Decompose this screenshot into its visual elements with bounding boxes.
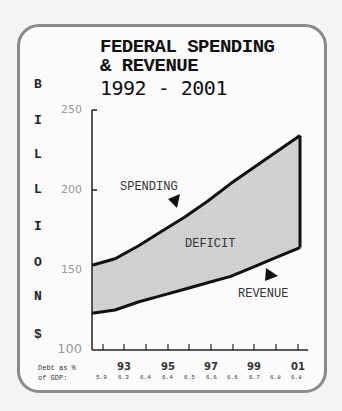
x-tick-label: 95 [161, 361, 175, 372]
debt-gdp-value: 6.7 [249, 374, 260, 381]
debt-gdp-value: 6.6 [227, 374, 238, 381]
chart-plot: 2502001501009395979901SPENDINGDEFICITREV… [0, 0, 342, 411]
debt-gdp-value: 5.9 [96, 374, 107, 381]
debt-gdp-value: 6.8 [270, 374, 281, 381]
footer-label: Debt as % of GDP: [38, 363, 76, 383]
x-tick-label: 01 [291, 361, 305, 372]
x-tick-label: 99 [247, 361, 261, 372]
debt-gdp-value: 6.4 [162, 374, 173, 381]
footer-label-line-2: of GDP: [38, 373, 76, 383]
debt-gdp-value: 6.8 [291, 374, 302, 381]
revenue-label: REVENUE [238, 287, 288, 301]
x-tick-label: 97 [204, 361, 218, 372]
footer-label-line-1: Debt as % [38, 363, 76, 373]
y-tick-label: 150 [61, 263, 82, 276]
y-tick-label: 200 [61, 183, 82, 196]
debt-gdp-value: 6.3 [118, 374, 129, 381]
deficit-label: DEFICIT [185, 237, 235, 251]
y-tick-label: 250 [61, 103, 82, 116]
spending-label: SPENDING [120, 180, 178, 194]
debt-gdp-value: 6.5 [184, 374, 195, 381]
debt-gdp-value: 6.6 [206, 374, 217, 381]
y-tick-label: 100 [57, 341, 82, 356]
debt-gdp-value: 6.4 [140, 374, 151, 381]
x-tick-label: 93 [117, 361, 131, 372]
spending-arrow-icon [168, 194, 180, 208]
revenue-arrow-icon [265, 268, 278, 281]
